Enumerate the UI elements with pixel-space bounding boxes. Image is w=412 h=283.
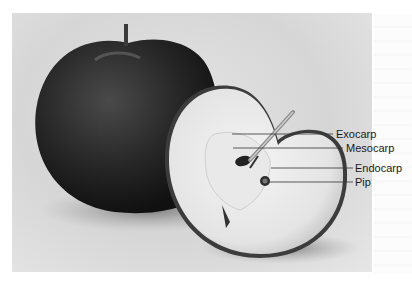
whole-apple-stem bbox=[124, 24, 128, 46]
label-pip: Pip bbox=[355, 176, 371, 188]
label-endocarp: Endocarp bbox=[355, 162, 402, 174]
label-exocarp: Exocarp bbox=[336, 128, 376, 140]
label-mesocarp: Mesocarp bbox=[346, 142, 394, 154]
